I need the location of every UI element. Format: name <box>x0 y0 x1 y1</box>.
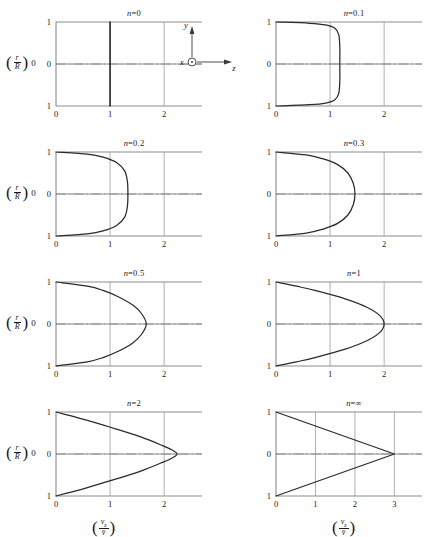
y-tick-ninf-mid: 0 <box>267 449 271 459</box>
axis-label-z: z <box>231 63 236 73</box>
y-tick-ninf-bot: 1 <box>267 491 271 501</box>
y-tick-n1-mid: 0 <box>267 319 271 329</box>
plot-svg-n02: 012101 <box>56 152 212 258</box>
x-tick-n0-2: 2 <box>162 109 166 119</box>
y-axis-label-row1: (rR)0 <box>6 184 36 201</box>
y-label-denominator: R <box>13 63 22 71</box>
plot-title-n2: n=2 <box>56 398 212 408</box>
y-label-denominator: R <box>13 193 22 201</box>
y-axis-zero-marker: 0 <box>31 188 36 198</box>
y-tick-n01-top: 1 <box>267 17 271 27</box>
x-tick-n02-1: 1 <box>108 239 112 249</box>
ratio-r-over-R: rR <box>13 444 22 461</box>
x-tick-ninf-0: 0 <box>274 499 278 509</box>
ratio-r-over-R: rR <box>13 184 22 201</box>
y-axis-label-row2: (rR)0 <box>6 314 36 331</box>
paren-open: ( <box>6 185 12 200</box>
y-tick-n0-bot: 1 <box>47 101 51 111</box>
y-axis-zero-marker: 0 <box>31 318 36 328</box>
paren-close: ) <box>23 185 29 200</box>
y-tick-n03-bot: 1 <box>267 231 271 241</box>
x-tick-n0-0: 0 <box>54 109 58 119</box>
paren-close: ) <box>23 445 29 460</box>
orientation-axes-inset: yzx <box>170 18 240 80</box>
ratio-vz-over-vbar: vzv̄ <box>339 518 349 537</box>
plot-svg-n05: 012101 <box>56 282 212 388</box>
plot-panel-n01: n=0.1012101 <box>276 22 426 128</box>
plot-title-n01: n=0.1 <box>276 8 426 18</box>
y-label-denominator: R <box>13 323 22 331</box>
x-tick-n2-0: 0 <box>54 499 58 509</box>
x-tick-n05-2: 2 <box>162 369 166 379</box>
y-tick-n01-mid: 0 <box>267 59 271 69</box>
y-axis-label-row0: (rR)0 <box>6 54 36 71</box>
paren-open: ( <box>6 315 12 330</box>
x-axis-label-col0: (vzv̄) <box>92 518 115 537</box>
paren-close: ) <box>23 55 29 70</box>
y-tick-n03-mid: 0 <box>267 189 271 199</box>
y-tick-n1-top: 1 <box>267 277 271 287</box>
plot-svg-ninf: 0123101 <box>276 412 426 518</box>
paren-open: ( <box>332 520 338 535</box>
plot-panel-n05: n=0.5012101 <box>56 282 212 388</box>
paren-open: ( <box>6 445 12 460</box>
ratio-vz-over-vbar: vzv̄ <box>99 518 109 537</box>
y-tick-n05-mid: 0 <box>47 319 51 329</box>
paren-open: ( <box>6 55 12 70</box>
y-tick-n2-bot: 1 <box>47 491 51 501</box>
y-tick-n05-bot: 1 <box>47 361 51 371</box>
y-tick-n01-bot: 1 <box>267 101 271 111</box>
plot-title-n02: n=0.2 <box>56 138 212 148</box>
plot-panel-n1: n=1012101 <box>276 282 426 388</box>
ratio-r-over-R: rR <box>13 54 22 71</box>
plot-title-n03: n=0.3 <box>276 138 426 148</box>
plot-title-ninf: n=∞ <box>276 398 426 408</box>
x-tick-ninf-3: 3 <box>392 499 396 509</box>
y-tick-n05-top: 1 <box>47 277 51 287</box>
y-tick-n2-mid: 0 <box>47 449 51 459</box>
x-tick-n2-1: 1 <box>108 499 112 509</box>
x-axis-label-col1: (vzv̄) <box>332 518 355 537</box>
ratio-r-over-R: rR <box>13 314 22 331</box>
x-tick-n02-0: 0 <box>54 239 58 249</box>
y-tick-n02-top: 1 <box>47 147 51 157</box>
x-tick-n03-2: 2 <box>382 239 386 249</box>
paren-open: ( <box>92 520 98 535</box>
y-tick-ninf-top: 1 <box>267 407 271 417</box>
y-tick-n03-top: 1 <box>267 147 271 157</box>
x-tick-n1-2: 2 <box>382 369 386 379</box>
y-tick-n1-bot: 1 <box>267 361 271 371</box>
x-tick-n01-1: 1 <box>328 109 332 119</box>
x-label-num-subscript: z <box>344 522 346 528</box>
plot-svg-n1: 012101 <box>276 282 426 388</box>
x-tick-n03-0: 0 <box>274 239 278 249</box>
plot-title-n05: n=0.5 <box>56 268 212 278</box>
y-tick-n02-mid: 0 <box>47 189 51 199</box>
x-tick-n02-2: 2 <box>162 239 166 249</box>
plot-svg-n2: 012101 <box>56 412 212 518</box>
x-label-num-subscript: z <box>104 522 106 528</box>
y-tick-n02-bot: 1 <box>47 231 51 241</box>
y-tick-n0-mid: 0 <box>47 59 51 69</box>
y-tick-n2-top: 1 <box>47 407 51 417</box>
paren-close: ) <box>23 315 29 330</box>
x-tick-n1-1: 1 <box>328 369 332 379</box>
paren-close: ) <box>350 520 356 535</box>
plot-svg-n03: 012101 <box>276 152 426 258</box>
x-label-denominator: v̄ <box>340 529 348 537</box>
plot-title-n0: n=0 <box>56 8 212 18</box>
x-tick-n01-0: 0 <box>274 109 278 119</box>
plot-svg-n01: 012101 <box>276 22 426 128</box>
x-tick-ninf-1: 1 <box>313 499 317 509</box>
plot-title-n1: n=1 <box>276 268 426 278</box>
x-label-denominator: v̄ <box>100 529 108 537</box>
y-label-denominator: R <box>13 453 22 461</box>
axis-label-x: x <box>179 57 184 67</box>
paren-close: ) <box>110 520 116 535</box>
x-tick-ninf-2: 2 <box>353 499 357 509</box>
x-tick-n01-2: 2 <box>382 109 386 119</box>
x-tick-n03-1: 1 <box>328 239 332 249</box>
x-tick-n05-0: 0 <box>54 369 58 379</box>
y-axis-label-row3: (rR)0 <box>6 444 36 461</box>
x-tick-n05-1: 1 <box>108 369 112 379</box>
